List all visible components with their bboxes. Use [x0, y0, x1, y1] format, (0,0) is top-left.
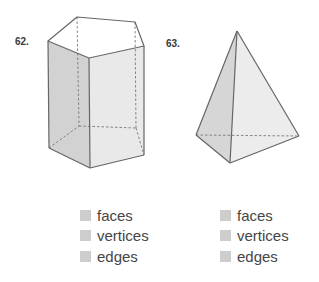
pyramid-right-face [230, 31, 299, 163]
edges-label: edges [97, 249, 138, 264]
answer-row-faces: faces [220, 205, 289, 226]
faces-label: faces [237, 208, 273, 223]
answer-row-vertices: vertices [220, 226, 289, 247]
triangular-pyramid-figure [196, 31, 299, 163]
vertices-answer-box[interactable] [80, 230, 91, 241]
vertices-label: vertices [97, 228, 149, 243]
answer-row-vertices: vertices [80, 226, 149, 247]
problem-62-answers: faces vertices edges [80, 205, 149, 267]
vertices-label: vertices [237, 228, 289, 243]
answer-row-edges: edges [80, 246, 149, 267]
faces-answer-box[interactable] [80, 210, 91, 221]
faces-label: faces [97, 208, 133, 223]
faces-answer-box[interactable] [220, 210, 231, 221]
prism-left-face [48, 41, 90, 168]
answer-row-faces: faces [80, 205, 149, 226]
edges-answer-box[interactable] [80, 251, 91, 262]
vertices-answer-box[interactable] [220, 230, 231, 241]
edges-answer-box[interactable] [220, 251, 231, 262]
pentagonal-prism-figure [48, 17, 144, 168]
answer-row-edges: edges [220, 246, 289, 267]
edges-label: edges [237, 249, 278, 264]
problem-63-answers: faces vertices edges [220, 205, 289, 267]
